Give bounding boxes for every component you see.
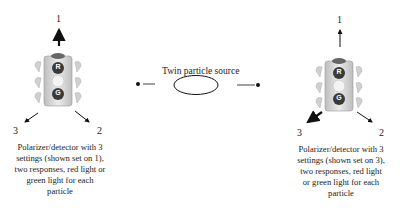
caption-line: Polarizer/detector with 3 xyxy=(287,144,395,155)
caption-line: two responses, red light or xyxy=(4,164,116,175)
left-particle xyxy=(136,82,140,86)
left-setting-label-2: 2 xyxy=(97,126,102,136)
right-setting-label-1: 1 xyxy=(337,15,342,25)
caption-line: Polarizer/detector with 3 xyxy=(4,142,116,153)
right-red-light-label: R xyxy=(335,68,343,75)
caption-line: settings (shown set on 3), xyxy=(287,155,395,166)
caption-line: or green light for each xyxy=(287,177,395,188)
caption-line: green light for each xyxy=(4,175,116,186)
right-detector-caption: Polarizer/detector with 3 settings (show… xyxy=(287,144,395,199)
source-ellipse xyxy=(174,76,218,95)
right-particle xyxy=(256,83,260,87)
right-setting-label-2: 2 xyxy=(379,128,384,138)
caption-line: two responses, red light xyxy=(287,166,395,177)
right-setting-label-3: 3 xyxy=(297,128,302,138)
left-arrow-setting-3 xyxy=(25,113,38,122)
left-setting-label-3: 3 xyxy=(13,126,18,136)
right-arrow-setting-2 xyxy=(357,112,372,122)
left-setting-label-1: 1 xyxy=(56,14,61,24)
left-red-light-label: R xyxy=(54,63,62,70)
right-arrow-setting-3 xyxy=(308,112,322,122)
left-traffic-light-icon xyxy=(35,53,81,106)
left-detector-caption: Polarizer/detector with 3 settings (show… xyxy=(4,142,116,197)
right-traffic-light-icon xyxy=(316,58,362,111)
right-green-light-label: G xyxy=(335,94,343,101)
caption-line: settings (shown set on 1), xyxy=(4,153,116,164)
twin-particle-source xyxy=(136,76,260,95)
left-arrow-setting-2 xyxy=(75,111,89,122)
caption-line: particle xyxy=(287,188,395,199)
source-label: Twin particle source xyxy=(162,66,239,76)
caption-line: particle xyxy=(4,186,116,197)
left-green-light-label: G xyxy=(54,89,62,96)
